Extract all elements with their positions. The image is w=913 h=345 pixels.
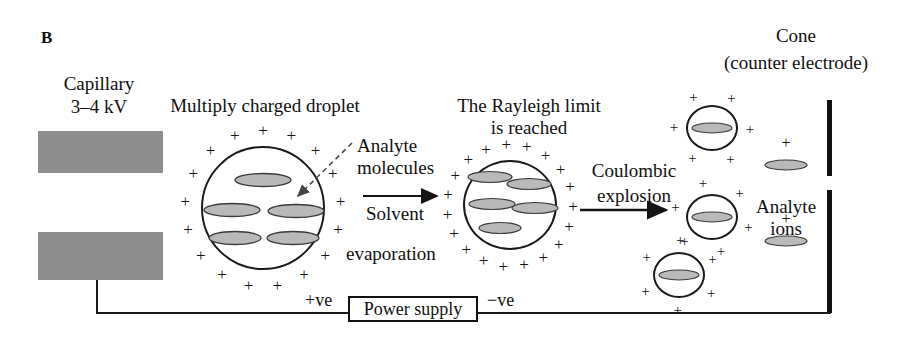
charge-plus-analyte-ion-lower: + — [781, 211, 790, 227]
charge-plus-multiply-charged-droplet-7: + — [299, 266, 309, 283]
charge-plus-rayleigh-limit-droplet-3: + — [565, 178, 575, 195]
coulombic-explosion-label-line2: explosion — [597, 185, 671, 206]
charge-plus-multiply-charged-droplet-0: + — [258, 122, 268, 139]
capillary-block-lower — [38, 232, 163, 280]
cone-counter-electrode-lower — [827, 190, 832, 313]
charge-plus-post-explosion-droplet-bottom-3: + — [641, 284, 649, 299]
solvent-evaporation-label-line1: Solvent — [366, 203, 424, 224]
negative-terminal-label: −ve — [487, 290, 514, 310]
charge-plus-post-explosion-droplet-top-5: + — [689, 90, 697, 105]
charge-plus-rayleigh-limit-droplet-14: + — [443, 185, 453, 202]
charge-plus-post-explosion-droplet-top-3: + — [688, 151, 696, 166]
solvent-evaporation-label-line2: evaporation — [346, 243, 436, 264]
charge-plus-rayleigh-limit-droplet-17: + — [481, 140, 491, 157]
charge-plus-analyte-ion-upper: + — [781, 135, 790, 151]
charge-plus-rayleigh-limit-droplet-0: + — [522, 138, 532, 155]
power-supply-box[interactable]: Power supply — [348, 296, 478, 322]
charge-plus-multiply-charged-droplet-4: + — [336, 192, 346, 209]
charge-plus-rayleigh-limit-droplet-16: + — [464, 151, 474, 168]
wire-to-power-supply-positive — [96, 312, 350, 314]
esi-diagram-figure: B Capillary 3–4 kV Multiply charged drop… — [0, 0, 913, 345]
charge-plus-rayleigh-limit-droplet-11: + — [462, 240, 472, 257]
charge-plus-post-explosion-droplet-bottom-5: + — [676, 233, 684, 248]
charge-plus-multiply-charged-droplet-2: + — [311, 142, 321, 159]
charge-plus-post-explosion-droplet-top-4: + — [670, 120, 678, 135]
charge-plus-post-explosion-droplet-bottom-2: + — [674, 302, 682, 317]
charge-plus-post-explosion-droplet-bottom-1: + — [707, 286, 715, 301]
charge-plus-multiply-charged-droplet-11: + — [196, 247, 206, 264]
charge-plus-multiply-charged-droplet-3: + — [328, 165, 338, 182]
charge-plus-rayleigh-limit-droplet-7: + — [538, 248, 548, 265]
analyte-ion-upper — [765, 160, 807, 170]
cone-label-line2: (counter electrode) — [724, 52, 868, 73]
charge-plus-rayleigh-limit-droplet-2: + — [556, 160, 566, 177]
charge-plus-multiply-charged-droplet-6: + — [320, 247, 330, 264]
charge-plus-post-explosion-droplet-middle-4: + — [671, 200, 679, 215]
analyte-molecules-label-line2: molecules — [357, 157, 434, 178]
charge-plus-multiply-charged-droplet-10: + — [217, 266, 227, 283]
charge-plus-post-explosion-droplet-middle-5: + — [699, 175, 707, 190]
multiply-charged-droplet-label: Multiply charged droplet — [170, 95, 360, 116]
charge-plus-post-explosion-droplet-top-1: + — [746, 121, 754, 136]
charge-plus-multiply-charged-droplet-1: + — [286, 127, 296, 144]
charge-plus-rayleigh-limit-droplet-5: + — [564, 218, 574, 235]
post-explosion-droplet-middle — [686, 194, 738, 240]
wire-capillary-drop — [96, 280, 98, 314]
charge-plus-multiply-charged-droplet-13: + — [181, 192, 191, 209]
charge-plus-post-explosion-droplet-top-0: + — [727, 90, 735, 105]
charge-plus-multiply-charged-droplet-12: + — [183, 221, 193, 238]
charge-plus-multiply-charged-droplet-15: + — [206, 142, 216, 159]
charge-plus-multiply-charged-droplet-14: + — [188, 165, 198, 182]
power-supply-label: Power supply — [364, 299, 463, 320]
capillary-label: Capillary — [64, 73, 135, 94]
cone-label-line1: Cone — [776, 25, 816, 46]
cone-counter-electrode-upper — [827, 100, 832, 176]
coulombic-explosion-label-line1: Coulombic — [592, 160, 676, 181]
capillary-block-upper — [38, 131, 163, 173]
charge-plus-rayleigh-limit-droplet-6: + — [554, 235, 564, 252]
capillary-voltage-label: 3–4 kV — [71, 96, 127, 117]
positive-terminal-label: +ve — [305, 290, 332, 310]
charge-plus-post-explosion-droplet-middle-0: + — [735, 185, 743, 200]
panel-letter-b: B — [41, 28, 52, 47]
charge-plus-rayleigh-limit-droplet-10: + — [479, 252, 489, 269]
charge-plus-rayleigh-limit-droplet-8: + — [519, 256, 529, 273]
charge-plus-post-explosion-droplet-middle-1: + — [744, 219, 752, 234]
charge-plus-rayleigh-limit-droplet-18: + — [501, 136, 511, 153]
rayleigh-limit-droplet — [463, 160, 557, 250]
charge-plus-multiply-charged-droplet-5: + — [333, 221, 343, 238]
charge-plus-rayleigh-limit-droplet-12: + — [449, 224, 459, 241]
charge-plus-post-explosion-droplet-bottom-0: + — [708, 251, 716, 266]
charge-plus-rayleigh-limit-droplet-15: + — [450, 166, 460, 183]
charge-plus-rayleigh-limit-droplet-4: + — [568, 198, 578, 215]
post-explosion-droplet-bottom — [653, 252, 705, 298]
wire-to-electrode-negative — [476, 312, 831, 314]
rayleigh-limit-label-line1: The Rayleigh limit — [457, 95, 601, 116]
charge-plus-multiply-charged-droplet-16: + — [230, 127, 240, 144]
charge-plus-rayleigh-limit-droplet-9: + — [499, 257, 509, 274]
charge-plus-post-explosion-droplet-bottom-4: + — [642, 249, 650, 264]
charge-plus-post-explosion-droplet-top-2: + — [726, 151, 734, 166]
multiply-charged-droplet — [201, 146, 325, 270]
charge-plus-multiply-charged-droplet-8: + — [273, 276, 283, 293]
charge-plus-multiply-charged-droplet-9: + — [244, 276, 254, 293]
charge-plus-rayleigh-limit-droplet-13: + — [443, 205, 453, 222]
post-explosion-droplet-top — [686, 105, 738, 151]
charge-plus-post-explosion-droplet-middle-2: + — [717, 244, 725, 259]
analyte-molecules-label-line1: Analyte — [357, 135, 417, 156]
charge-plus-rayleigh-limit-droplet-1: + — [541, 146, 551, 163]
